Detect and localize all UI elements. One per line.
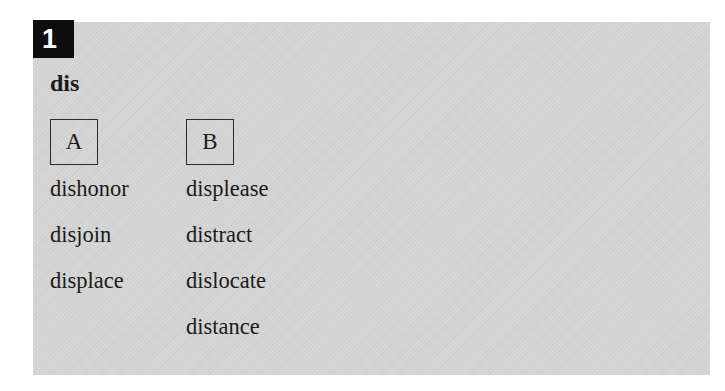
column-a-word-list: dishonor disjoin displace	[50, 176, 129, 314]
column-b-label-box: B	[186, 119, 234, 165]
word-item: dishonor	[50, 176, 129, 222]
exercise-panel	[33, 22, 710, 375]
word-item: disjoin	[50, 222, 129, 268]
column-b-word-list: displease distract dislocate distance	[186, 176, 268, 360]
word-item: displace	[50, 268, 129, 314]
exercise-number-badge: 1	[33, 20, 74, 58]
prefix-heading: dis	[50, 68, 79, 98]
word-item: distract	[186, 222, 268, 268]
word-item: dislocate	[186, 268, 268, 314]
column-a-label-box: A	[50, 119, 98, 165]
word-item: distance	[186, 314, 268, 360]
word-item: displease	[186, 176, 268, 222]
column-a: A dishonor disjoin displace	[50, 119, 129, 314]
column-b: B displease distract dislocate distance	[186, 119, 268, 360]
